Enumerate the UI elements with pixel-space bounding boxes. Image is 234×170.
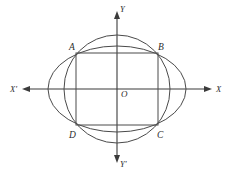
y-axis-group	[114, 11, 120, 163]
y-negative-axis-label: Y'	[120, 159, 127, 169]
point-label-d: D	[68, 130, 76, 140]
point-label-c: C	[157, 130, 164, 140]
x-axis-negative-arrow-icon	[22, 86, 30, 92]
point-label-a: A	[68, 42, 75, 52]
x-axis-positive-arrow-icon	[204, 86, 212, 92]
point-label-b: B	[158, 42, 164, 52]
x-positive-axis-label: X	[215, 84, 222, 94]
x-negative-axis-label: X'	[9, 84, 17, 94]
origin-label: O	[121, 89, 128, 99]
geometry-figure: A B C D O X' X Y Y'	[0, 0, 234, 170]
y-positive-axis-label: Y	[120, 4, 126, 14]
figure-canvas: A B C D O X' X Y Y'	[0, 0, 234, 170]
